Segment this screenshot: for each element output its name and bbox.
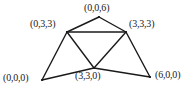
vertex-label-upper-left: (0,3,3) (30, 18, 55, 29)
edge-upper-left-to-bottom-mid (67, 32, 94, 68)
vertex-label-bottom-right: (6,0,0) (155, 69, 180, 80)
vertex-label-upper-right: (3,3,3) (129, 18, 154, 29)
geometry-figure: (0,0,6) (0,3,3) (3,3,3) (0,0,0) (3,3,0) … (0, 0, 194, 91)
edge-upper-left-to-bottom-left (42, 32, 67, 80)
vertex-label-bottom-mid: (3,3,0) (75, 70, 100, 81)
edge-upper-right-to-bottom-right (126, 32, 150, 77)
vertex-point-bottom-mid (93, 67, 95, 69)
edge-top-to-upper-left (67, 17, 99, 32)
vertex-point-upper-left (66, 31, 68, 33)
vertex-label-bottom-left: (0,0,0) (3, 72, 28, 83)
edge-bottom-mid-to-bottom-right (94, 68, 150, 77)
vertex-point-bottom-left (41, 79, 43, 81)
edge-upper-right-to-bottom-mid (94, 32, 126, 68)
vertex-point-upper-right (125, 31, 127, 33)
vertex-point-top (98, 16, 100, 18)
vertex-label-top: (0,0,6) (84, 2, 109, 13)
vertex-point-bottom-right (149, 76, 151, 78)
edge-top-to-upper-right (99, 17, 126, 32)
